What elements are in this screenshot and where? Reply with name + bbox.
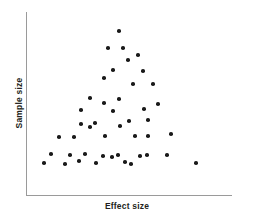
data-point <box>68 153 72 157</box>
data-point <box>102 101 106 105</box>
data-point <box>136 53 140 57</box>
data-point <box>79 122 83 126</box>
scatter-points-layer <box>0 0 254 224</box>
data-point <box>103 134 107 138</box>
data-point <box>146 118 150 122</box>
data-point <box>194 161 198 165</box>
data-point <box>63 162 67 166</box>
data-point <box>88 125 92 129</box>
data-point <box>133 134 137 138</box>
data-point <box>93 121 97 125</box>
x-axis-label: Effect size <box>0 201 254 211</box>
data-point <box>121 46 125 50</box>
data-point <box>111 109 115 113</box>
data-point <box>57 135 61 139</box>
data-point <box>102 76 106 80</box>
data-point <box>83 152 87 156</box>
data-point <box>169 132 173 136</box>
data-point <box>123 160 127 164</box>
data-point <box>116 153 120 157</box>
data-point <box>138 154 142 158</box>
data-point <box>131 82 135 86</box>
data-point <box>127 119 131 123</box>
data-point <box>165 153 169 157</box>
y-axis-label: Sample size <box>14 43 24 163</box>
plot-area: Sample size Effect size <box>0 0 254 224</box>
data-point <box>141 69 145 73</box>
data-point <box>106 46 110 50</box>
data-point <box>49 152 53 156</box>
data-point <box>118 124 122 128</box>
data-point <box>142 107 146 111</box>
data-point <box>94 161 98 165</box>
data-point <box>101 154 105 158</box>
funnel-plot-figure: Sample size Effect size <box>0 0 254 224</box>
data-point <box>88 96 92 100</box>
data-point <box>77 159 81 163</box>
data-point <box>146 134 150 138</box>
data-point <box>117 29 121 33</box>
data-point <box>110 155 114 159</box>
data-point <box>126 58 130 62</box>
data-point <box>42 161 46 165</box>
data-point <box>129 162 133 166</box>
data-point <box>79 108 83 112</box>
data-point <box>151 82 155 86</box>
data-point <box>72 135 76 139</box>
data-point <box>145 153 149 157</box>
data-point <box>111 68 115 72</box>
data-point <box>117 97 121 101</box>
data-point <box>156 102 160 106</box>
